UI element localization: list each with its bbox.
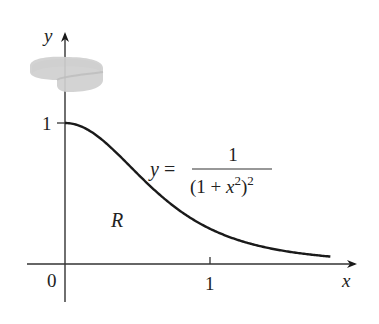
y-axis-label: y xyxy=(42,25,53,46)
y-tick-label-one: 1 xyxy=(42,113,52,134)
x-tick-label-one: 1 xyxy=(205,273,215,294)
svg-text:(1 + x2)2: (1 + x2)2 xyxy=(190,173,254,198)
region-rotation-diagram: y x 1 0 1 R y = 1 (1 + x2)2 xyxy=(0,0,379,324)
equation-numerator: 1 xyxy=(228,144,238,165)
region-label: R xyxy=(110,209,123,231)
origin-label: 0 xyxy=(47,270,57,291)
svg-text:y =: y = xyxy=(148,158,175,181)
x-axis-label: x xyxy=(341,270,351,291)
curve-equation: y = 1 (1 + x2)2 xyxy=(148,144,272,198)
